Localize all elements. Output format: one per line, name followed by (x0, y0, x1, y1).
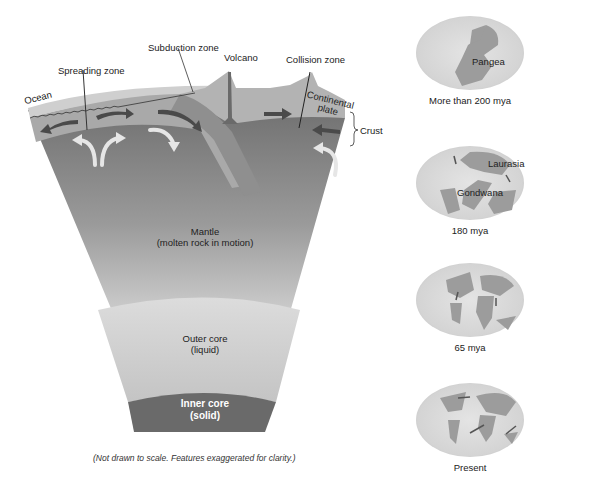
laurasia-label: Laurasia (488, 158, 524, 169)
subduction-zone-label: Subduction zone (148, 42, 219, 53)
gondwana-label: Gondwana (457, 187, 503, 198)
outer-core-label: Outer core (liquid) (155, 333, 255, 356)
inner-core-label: Inner core (solid) (155, 398, 255, 422)
crust-bracket (350, 112, 358, 146)
spreading-zone-label: Spreading zone (58, 65, 125, 76)
map-65mya (416, 263, 524, 337)
map-caption-200mya: More than 200 mya (410, 95, 530, 106)
map-caption-180mya: 180 mya (410, 225, 530, 236)
collision-zone-label: Collision zone (286, 54, 345, 65)
mantle-label: Mantle (molten rock in motion) (135, 226, 275, 249)
map-caption-present: Present (410, 462, 530, 473)
map-present (416, 383, 524, 457)
subduction-pointer (178, 48, 193, 92)
map-caption-65mya: 65 mya (410, 342, 530, 353)
map-pangea (416, 16, 524, 90)
volcano-label: Volcano (224, 52, 258, 63)
pangea-label: Pangea (472, 56, 505, 67)
crust-label: Crust (360, 125, 383, 136)
diagram-caption: (Not drawn to scale. Features exaggerate… (93, 453, 296, 463)
